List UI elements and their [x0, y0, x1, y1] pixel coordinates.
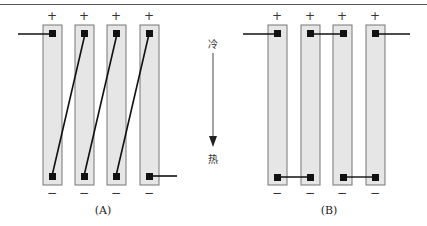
- panel-b-bar-1: [268, 25, 287, 185]
- node-icon: [340, 30, 347, 37]
- node-icon: [340, 174, 347, 181]
- panel-a-bar-3-plus: +: [109, 9, 123, 23]
- node-icon: [372, 30, 379, 37]
- panel-b-bar-3-minus: −: [335, 186, 349, 200]
- node-icon: [307, 174, 314, 181]
- panel-b-bar-3-plus: +: [335, 9, 349, 23]
- panel-b-bars: [268, 25, 385, 185]
- panel-b-nodes: [274, 30, 379, 181]
- panel-b-bar-2: [301, 25, 320, 185]
- node-icon: [146, 173, 153, 180]
- hot-label: 热: [205, 151, 221, 166]
- node-icon: [146, 30, 153, 37]
- panel-b-bar-4-minus: −: [368, 186, 382, 200]
- cold-label: 冷: [205, 36, 221, 51]
- panel-a-bar-1: [43, 25, 62, 185]
- panel-a-bar-3: [107, 25, 126, 185]
- panel-a-bar-4-minus: −: [142, 186, 156, 200]
- panel-b-caption: (B): [314, 204, 344, 217]
- panel-a-bar-2-plus: +: [77, 9, 91, 23]
- panel-b-bar-4: [366, 25, 385, 185]
- node-icon: [113, 173, 120, 180]
- node-icon: [113, 30, 120, 37]
- panel-a-bar-2-minus: −: [77, 186, 91, 200]
- diagram-canvas: [0, 0, 427, 226]
- panel-b-bar-2-plus: +: [303, 9, 317, 23]
- panel-b-bar-2-minus: −: [303, 186, 317, 200]
- panel-b-bar-1-minus: −: [270, 186, 284, 200]
- panel-b-bar-4-plus: +: [368, 9, 382, 23]
- node-icon: [49, 30, 56, 37]
- node-icon: [81, 173, 88, 180]
- panel-a-bar-1-plus: +: [45, 9, 59, 23]
- node-icon: [372, 174, 379, 181]
- panel-a-bar-4-plus: +: [142, 9, 156, 23]
- panel-a-bar-4: [140, 25, 159, 185]
- cold-to-hot-arrow-icon: [209, 53, 217, 147]
- panel-a-bar-1-minus: −: [45, 186, 59, 200]
- panel-b-bar-1-plus: +: [270, 9, 284, 23]
- node-icon: [81, 30, 88, 37]
- panel-b-bar-3: [333, 25, 352, 185]
- panel-a-caption: (A): [88, 204, 118, 217]
- node-icon: [274, 174, 281, 181]
- panel-a-bar-3-minus: −: [109, 186, 123, 200]
- panel-a-bar-2: [75, 25, 94, 185]
- node-icon: [49, 173, 56, 180]
- node-icon: [307, 30, 314, 37]
- node-icon: [274, 30, 281, 37]
